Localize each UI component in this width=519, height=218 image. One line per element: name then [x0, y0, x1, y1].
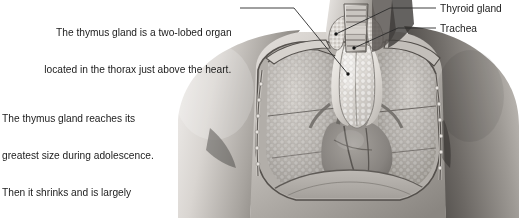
caption-line: The thymus gland reaches its: [2, 113, 154, 125]
caption-thymus-lifespan: The thymus gland reaches its greatest si…: [2, 88, 154, 218]
caption-line: greatest size during adolescence.: [2, 150, 154, 162]
illustration-canvas: The thymus gland is a two-lobed organ lo…: [0, 0, 519, 218]
caption-thymus-definition: The thymus gland is a two-lobed organ lo…: [56, 2, 232, 101]
label-trachea: Trachea: [440, 23, 477, 35]
caption-line: located in the thorax just above the hea…: [44, 64, 232, 76]
caption-line: The thymus gland is a two-lobed organ: [56, 27, 232, 39]
thoracic-cavity: [252, 40, 446, 218]
thymus-gland: [331, 43, 382, 128]
caption-line: Then it shrinks and is largely: [2, 187, 154, 199]
label-thyroid-gland: Thyroid gland: [440, 3, 502, 15]
